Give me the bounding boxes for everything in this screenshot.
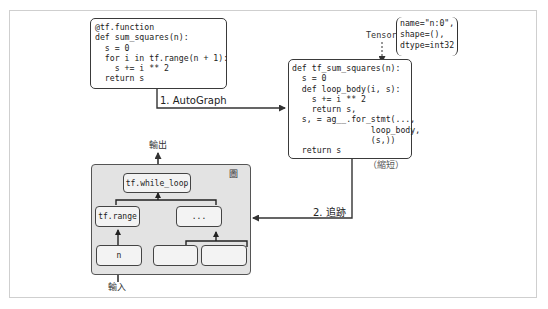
converted-code-line: s = 0 <box>292 73 408 83</box>
tensor-details-bracket: name="n:0", shape=(), dtype=int32 <box>396 17 458 56</box>
source-code-line: for i in tf.range(n + 1): <box>95 53 222 63</box>
node-blank-2 <box>201 245 247 266</box>
converted-code-line: loop_body, <box>292 125 408 135</box>
tensor-detail-line: dtype=int32 <box>400 40 454 51</box>
input-label: 輸入 <box>108 280 126 293</box>
node-ellipsis: ... <box>176 206 222 227</box>
tensor-detail-line: name="n:0", <box>400 18 454 29</box>
step2-label: 2. 追跡 <box>313 204 346 219</box>
node-n: n <box>96 245 142 266</box>
node-blank-1 <box>153 245 198 266</box>
tensor-detail-line: shape=(), <box>400 29 454 40</box>
output-label: 輸出 <box>149 138 167 151</box>
connector-arrows <box>0 0 548 309</box>
converted-code-line: return s <box>292 145 408 155</box>
tensor-label: Tensor <box>366 30 397 40</box>
source-code-line: return s <box>95 73 222 83</box>
converted-code-line: s += i ** 2 <box>292 94 408 104</box>
source-code-box: @tf.function def sum_squares(n): s = 0 f… <box>90 18 227 89</box>
graph-box: 圖 tf.while_loop tf.range ... n <box>91 164 251 275</box>
shortened-note: （縮短） <box>368 158 404 171</box>
converted-code-line: def tf_sum_squares(n): <box>292 63 408 73</box>
converted-code-line: (s,)) <box>292 135 408 145</box>
source-code-line: def sum_squares(n): <box>95 32 222 42</box>
source-code-line: @tf.function <box>95 22 222 32</box>
converted-code-line: return s, <box>292 104 408 114</box>
step1-label: 1. AutoGraph <box>160 95 227 106</box>
node-tf-range: tf.range <box>95 206 140 227</box>
source-code-line: s += i ** 2 <box>95 63 222 73</box>
source-code-line: s = 0 <box>95 43 222 53</box>
converted-code-line: def loop_body(i, s): <box>292 84 408 94</box>
converted-code-box: def tf_sum_squares(n): s = 0 def loop_bo… <box>288 59 412 159</box>
converted-code-line: s, = ag__.for_stmt(..., <box>292 114 408 124</box>
node-while-loop: tf.while_loop <box>123 173 191 193</box>
